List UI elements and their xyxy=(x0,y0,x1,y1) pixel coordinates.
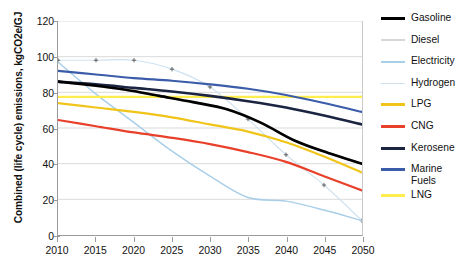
emissions-line-chart: Combined (life cycle) emissions, kgCO2e/… xyxy=(0,0,468,265)
x-tick-mark xyxy=(363,237,364,242)
y-tick-label: 80 xyxy=(20,87,54,98)
y-tick-label: 60 xyxy=(20,123,54,134)
chart-legend: GasolineDieselElectricityHydrogenLPGCNGK… xyxy=(381,12,468,211)
x-tick-mark xyxy=(248,237,249,242)
legend-item[interactable]: Kerosene xyxy=(381,142,468,155)
legend-swatch-wrap xyxy=(381,55,407,68)
plot-area xyxy=(57,21,363,236)
y-tick-label: 20 xyxy=(20,195,54,206)
legend-label: Electricity xyxy=(407,55,455,67)
legend-label: LNG xyxy=(407,189,432,201)
legend-color-swatch xyxy=(381,168,405,171)
x-tick-mark xyxy=(210,237,211,242)
legend-swatch-wrap xyxy=(381,98,407,111)
legend-item[interactable]: Diesel xyxy=(381,34,468,47)
legend-color-swatch xyxy=(381,39,405,41)
y-tick-label: 40 xyxy=(20,159,54,170)
legend-label: Kerosene xyxy=(407,142,455,154)
legend-label: Gasoline xyxy=(407,12,451,24)
legend-item[interactable]: LPG xyxy=(381,98,468,111)
legend-item[interactable]: Electricity xyxy=(381,55,468,68)
legend-color-swatch xyxy=(381,125,405,128)
legend-swatch-wrap xyxy=(381,34,407,47)
legend-color-swatch xyxy=(381,61,405,63)
legend-label: Hydrogen xyxy=(407,77,455,89)
x-tick-mark xyxy=(57,237,58,242)
legend-swatch-wrap xyxy=(381,120,407,133)
data-point-marker xyxy=(132,58,136,62)
legend-item[interactable]: LNG xyxy=(381,189,468,202)
legend-label: Marine Fuels xyxy=(407,163,442,186)
series-canvas xyxy=(58,21,362,235)
legend-swatch-wrap xyxy=(381,12,407,25)
legend-label: LPG xyxy=(407,98,431,110)
series-gasoline xyxy=(58,82,362,164)
legend-swatch-wrap xyxy=(381,163,407,176)
legend-item[interactable]: CNG xyxy=(381,120,468,133)
x-tick-mark xyxy=(95,237,96,242)
y-tick-label: 120 xyxy=(20,16,54,27)
legend-swatch-wrap xyxy=(381,189,407,202)
legend-color-swatch xyxy=(381,83,405,84)
x-tick-mark xyxy=(287,237,288,242)
data-point-marker xyxy=(94,58,98,62)
x-tick-label: 2050 xyxy=(340,245,386,256)
legend-item[interactable]: Gasoline xyxy=(381,12,468,25)
x-tick-mark xyxy=(172,237,173,242)
legend-label: CNG xyxy=(407,120,434,132)
legend-label: Diesel xyxy=(407,34,439,46)
series-cng xyxy=(58,120,362,190)
y-tick-label: 100 xyxy=(20,51,54,62)
legend-item[interactable]: Marine Fuels xyxy=(381,163,468,187)
y-tick-label: 0 xyxy=(20,231,54,242)
legend-color-swatch xyxy=(381,147,405,150)
legend-color-swatch xyxy=(381,17,405,20)
x-tick-mark xyxy=(325,237,326,242)
x-axis-tick-labels: 201020152020202520302035204020452050 xyxy=(57,237,363,263)
legend-item[interactable]: Hydrogen xyxy=(381,77,468,90)
series-diesel xyxy=(58,82,362,164)
y-axis-tick-labels: 020406080100120 xyxy=(18,21,54,236)
x-tick-mark xyxy=(134,237,135,242)
legend-color-swatch xyxy=(381,103,405,106)
legend-swatch-wrap xyxy=(381,77,407,90)
series-hydrogen xyxy=(58,58,362,223)
legend-color-swatch xyxy=(381,194,405,197)
data-point-marker xyxy=(170,67,174,71)
legend-swatch-wrap xyxy=(381,142,407,155)
